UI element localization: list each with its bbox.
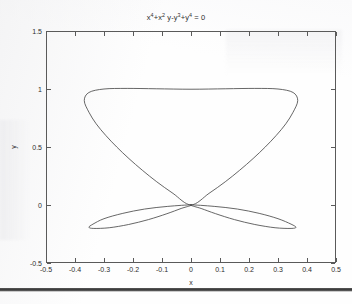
y-tick-right-0 [331, 263, 335, 264]
y-tick-label-4: 1.5 [32, 28, 42, 35]
x-tick-label-9: 0.4 [302, 266, 312, 273]
x-tick-bottom-2 [104, 258, 105, 262]
x-tick-top-4 [162, 32, 163, 36]
x-tick-top-9 [307, 32, 308, 36]
x-tick-top-0 [46, 32, 47, 36]
x-tick-bottom-6 [220, 258, 221, 262]
x-tick-label-3: -0.2 [127, 266, 139, 273]
x-tick-bottom-8 [278, 258, 279, 262]
x-tick-label-8: 0.3 [273, 266, 283, 273]
x-tick-bottom-7 [249, 258, 250, 262]
x-tick-top-10 [336, 32, 337, 36]
curve-svg [46, 31, 336, 263]
x-tick-bottom-1 [75, 258, 76, 262]
y-tick-right-3 [331, 89, 335, 90]
curve-lower-lobe-left [89, 205, 191, 229]
x-tick-bottom-10 [336, 258, 337, 262]
scan-edge-line-secondary [0, 291, 352, 292]
y-tick-left-1 [47, 205, 51, 206]
y-tick-left-2 [47, 147, 51, 148]
y-tick-left-4 [47, 31, 51, 32]
y-tick-right-4 [331, 31, 335, 32]
plot-figure: x4+x2 y-y3+y4 = 0 -0.5-0.4-0.3-0.2-0.100… [0, 0, 352, 304]
curve-plot-area [46, 31, 336, 263]
x-axis-title: x [189, 279, 193, 286]
x-tick-bottom-5 [191, 258, 192, 262]
x-tick-label-2: -0.3 [98, 266, 110, 273]
curve-group [84, 88, 297, 228]
y-axis-title: y [10, 145, 17, 149]
x-tick-label-7: 0.2 [244, 266, 254, 273]
y-tick-label-2: 0.5 [32, 144, 42, 151]
x-tick-top-6 [220, 32, 221, 36]
x-tick-bottom-0 [46, 258, 47, 262]
x-tick-top-3 [133, 32, 134, 36]
plot-title: x4+x2 y-y3+y4 = 0 [0, 13, 352, 22]
x-tick-top-8 [278, 32, 279, 36]
y-tick-left-3 [47, 89, 51, 90]
y-tick-right-1 [331, 205, 335, 206]
x-tick-label-4: -0.1 [156, 266, 168, 273]
x-tick-label-5: 0 [189, 266, 193, 273]
curve-lower-lobe-right [191, 205, 296, 229]
x-tick-bottom-9 [307, 258, 308, 262]
x-tick-label-6: 0.1 [215, 266, 225, 273]
x-tick-top-1 [75, 32, 76, 36]
x-tick-top-5 [191, 32, 192, 36]
y-tick-left-0 [47, 263, 51, 264]
y-tick-label-3: 1 [38, 86, 42, 93]
x-tick-top-7 [249, 32, 250, 36]
y-tick-label-0: -0.5 [30, 260, 42, 267]
x-tick-label-10: 0.5 [331, 266, 341, 273]
curve-upper-loop [84, 88, 297, 205]
y-tick-label-1: 0 [38, 202, 42, 209]
x-tick-bottom-4 [162, 258, 163, 262]
x-tick-bottom-3 [133, 258, 134, 262]
x-tick-label-1: -0.4 [69, 266, 81, 273]
x-tick-label-0: -0.5 [40, 266, 52, 273]
x-tick-top-2 [104, 32, 105, 36]
y-tick-right-2 [331, 147, 335, 148]
